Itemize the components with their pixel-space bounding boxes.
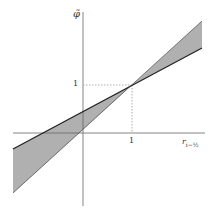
upper-bound-line [13, 48, 202, 149]
y-tick-label: 1 [73, 79, 78, 88]
x-axis-label-sub: i−½ [186, 141, 199, 148]
x-tick-label: 1 [129, 136, 134, 145]
lower-bound-line [13, 21, 202, 193]
y-axis-label: φ̃ [73, 8, 80, 19]
x-axis-label: ri−½ [182, 137, 199, 148]
diagram-canvas [0, 0, 213, 213]
